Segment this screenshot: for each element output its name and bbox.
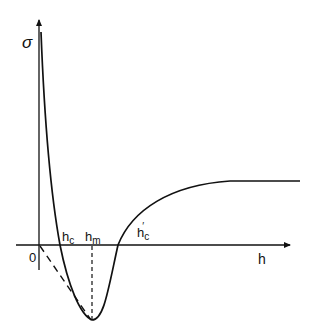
hc-prime-label: hc′ [137, 221, 149, 242]
origin-label: 0 [29, 250, 36, 265]
hm-label: hm [85, 229, 101, 246]
hc-label: hc [62, 229, 74, 246]
dashed-tangent-line [40, 246, 91, 320]
sigma-curve [41, 32, 300, 320]
x-axis-label: h [258, 251, 266, 267]
sigma-h-diagram: σ h 0 hc hm hc′ [0, 0, 315, 336]
y-axis-label: σ [22, 33, 33, 52]
